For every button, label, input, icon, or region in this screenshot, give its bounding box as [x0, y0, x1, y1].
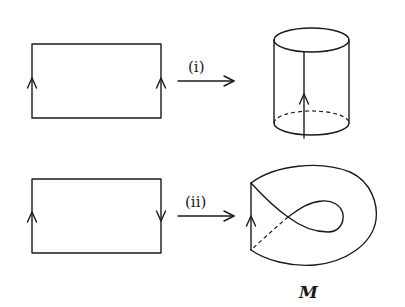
cylinder [274, 28, 349, 138]
mobius-outer-boundary [251, 165, 376, 265]
gluing-diagram: (i) (ii) M [0, 0, 405, 307]
rectangle-ii [28, 179, 166, 253]
map-arrow-i: (i) [178, 58, 234, 86]
cylinder-bottom-front [274, 123, 349, 135]
map-arrow-ii: (ii) [178, 193, 234, 221]
mobius-hidden-edge [251, 217, 288, 250]
arrow-label-i: (i) [188, 58, 205, 76]
rectangle-outline [32, 179, 161, 253]
mobius-strip: M [247, 165, 377, 302]
mobius-twist-lobe [251, 183, 343, 232]
rectangle-i [28, 44, 166, 118]
arrow-label-ii: (ii) [185, 193, 206, 211]
cylinder-top-ellipse [274, 28, 349, 52]
cylinder-bottom-back [274, 111, 349, 123]
mobius-label: M [298, 282, 319, 302]
rectangle-outline [32, 44, 161, 118]
